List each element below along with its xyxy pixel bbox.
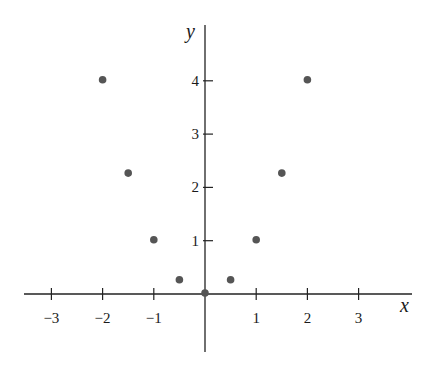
y-tick-label: 3 xyxy=(192,126,200,142)
y-tick-label: 4 xyxy=(192,73,200,89)
data-point xyxy=(227,276,235,284)
data-point xyxy=(252,236,260,244)
data-point xyxy=(150,236,158,244)
x-tick-label: −3 xyxy=(43,310,59,326)
data-point xyxy=(278,169,286,177)
y-tick-label: 2 xyxy=(192,179,200,195)
scatter-chart: −3−2−11231234 x y xyxy=(0,0,437,374)
x-tick-label: −1 xyxy=(146,310,162,326)
x-tick-label: 3 xyxy=(355,310,363,326)
data-point xyxy=(124,169,132,177)
x-tick-label: −2 xyxy=(95,310,111,326)
tick-labels: −3−2−11231234 xyxy=(43,73,362,326)
data-point xyxy=(201,289,209,297)
data-point xyxy=(99,76,107,84)
x-tick-label: 2 xyxy=(304,310,312,326)
data-point xyxy=(304,76,312,84)
y-axis-label: y xyxy=(184,20,195,43)
x-axis-label: x xyxy=(399,294,409,316)
y-tick-label: 1 xyxy=(192,233,200,249)
axes xyxy=(24,25,412,352)
x-tick-label: 1 xyxy=(252,310,260,326)
data-point xyxy=(176,276,184,284)
